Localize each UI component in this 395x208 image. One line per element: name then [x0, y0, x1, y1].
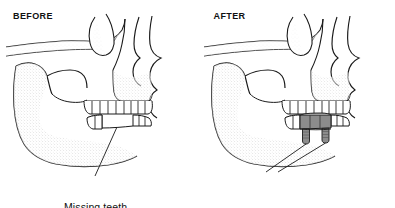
- edentulous-ridge: [102, 126, 133, 128]
- orbit-nasal-bone: [287, 14, 312, 55]
- implant-posts: [302, 128, 329, 144]
- three-tooth-bridge: [300, 113, 331, 129]
- orbit-nasal-bone: [89, 14, 114, 55]
- panel-after: AFTER: [198, 0, 395, 208]
- maxilla-upper-jaw: [311, 70, 350, 103]
- dental-implant-figure: BEFORE: [0, 0, 395, 208]
- lower-teeth-row-with-gap: [87, 115, 151, 129]
- maxilla-upper-jaw: [113, 70, 152, 103]
- panel-before: BEFORE: [0, 0, 198, 208]
- mandibular-ridge-line: [300, 129, 331, 130]
- implant-post-posterior: [322, 128, 329, 143]
- caption-line: Missing teeth: [64, 201, 127, 208]
- implant-post-anterior: [302, 129, 309, 144]
- after-illustration: [198, 0, 395, 208]
- upper-teeth-row: [84, 101, 152, 114]
- caption-missing-teeth: Missing teeth: [64, 176, 127, 208]
- upper-teeth-row: [282, 101, 350, 114]
